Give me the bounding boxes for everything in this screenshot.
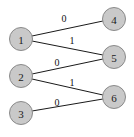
edge-2-to-6 — [32, 79, 103, 95]
edge-label-2-to-5: 0 — [55, 57, 60, 68]
edge-1-to-5 — [32, 41, 103, 55]
edge-3-to-6 — [32, 99, 103, 111]
edge-1-to-4 — [32, 21, 103, 36]
node-label-4: 4 — [111, 14, 117, 26]
node-1[interactable]: 1 — [10, 28, 33, 51]
edge-labels-group: 01010 — [55, 13, 75, 108]
node-6[interactable]: 6 — [103, 86, 126, 109]
edge-label-3-to-6: 0 — [55, 97, 60, 108]
edges-group — [32, 21, 103, 111]
edge-2-to-5 — [32, 59, 103, 74]
node-4[interactable]: 4 — [103, 8, 126, 31]
node-label-6: 6 — [111, 92, 117, 104]
edge-label-1-to-5: 1 — [70, 35, 75, 46]
node-label-1: 1 — [18, 34, 24, 46]
edge-label-1-to-4: 0 — [62, 13, 67, 24]
node-label-3: 3 — [18, 108, 24, 120]
node-label-2: 2 — [18, 71, 24, 83]
node-3[interactable]: 3 — [10, 102, 33, 125]
node-5[interactable]: 5 — [103, 46, 126, 69]
graph-canvas: 123456 01010 — [0, 0, 134, 137]
node-label-5: 5 — [111, 52, 117, 64]
node-2[interactable]: 2 — [10, 65, 33, 88]
edge-label-2-to-6: 1 — [70, 77, 75, 88]
bipartite-graph-figure: 123456 01010 — [0, 0, 134, 137]
